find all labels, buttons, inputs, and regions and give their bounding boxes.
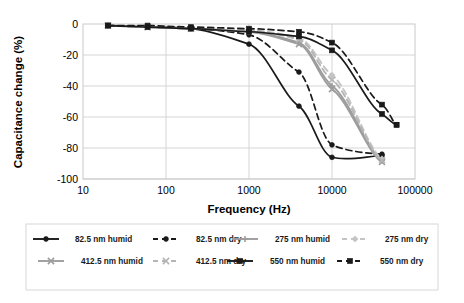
data-point-marker: [380, 111, 385, 116]
data-point-marker: [145, 23, 150, 28]
legend-marker-swatch: [164, 237, 169, 242]
legend-label: 82.5 nm humid: [75, 235, 132, 244]
y-tick-label: -40: [63, 80, 78, 92]
y-tick-label: 0: [72, 18, 78, 30]
data-point-marker: [297, 70, 302, 75]
legend-label: 275 nm humid: [275, 235, 330, 244]
legend-marker-swatch: [348, 259, 353, 264]
data-point-marker: [297, 29, 302, 34]
y-tick-label: -60: [63, 111, 78, 123]
chart-figure: 0-20-40-60-80-100 10100100010000100000 C…: [0, 0, 464, 303]
y-tick-label: -20: [63, 49, 78, 61]
legend-label: 412.5 nm humid: [81, 257, 143, 266]
y-axis-title: Capacitance change (%): [12, 36, 24, 168]
data-point-marker: [297, 34, 302, 39]
data-point-marker: [247, 42, 252, 47]
legend-marker-swatch: [238, 259, 243, 264]
x-tick-label: 10000: [317, 184, 346, 196]
y-tick-label: -80: [63, 142, 78, 154]
data-point-marker: [330, 155, 335, 160]
data-point-marker: [330, 142, 335, 147]
data-point-marker: [189, 25, 194, 30]
data-point-marker: [106, 23, 111, 28]
capacitance-vs-frequency-chart: 0-20-40-60-80-100 10100100010000100000 C…: [0, 0, 464, 303]
x-tick-label: 1000: [237, 184, 261, 196]
x-tick-label: 100: [157, 184, 175, 196]
data-point-marker: [330, 40, 335, 45]
legend-marker-swatch: [44, 237, 49, 242]
legend-label: 550 nm humid: [270, 257, 325, 266]
x-tick-label: 10: [77, 184, 89, 196]
data-point-marker: [247, 26, 252, 31]
x-axis-title: Frequency (Hz): [207, 203, 290, 215]
x-tick-label: 100000: [397, 184, 432, 196]
data-point-marker: [394, 122, 399, 127]
legend-label: 550 nm dry: [380, 257, 424, 266]
data-point-marker: [297, 104, 302, 109]
y-tick-label: -100: [57, 173, 78, 185]
legend-label: 275 nm dry: [385, 235, 429, 244]
data-point-marker: [330, 48, 335, 53]
data-point-marker: [380, 102, 385, 107]
